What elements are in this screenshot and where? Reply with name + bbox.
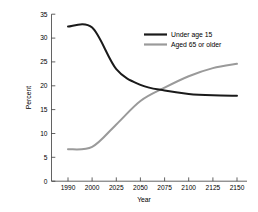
line-chart: 0 5 10 15 20 25 30 35 1990 2000 2025 205… bbox=[0, 0, 258, 212]
legend-label-aged-65-or-older: Aged 65 or older bbox=[171, 41, 222, 49]
y-axis-tick-labels: 0 5 10 15 20 25 30 35 bbox=[40, 11, 48, 185]
y-tick-label-20: 20 bbox=[40, 82, 48, 89]
y-tick-label-25: 25 bbox=[40, 58, 48, 65]
x-tick-label-2025: 2025 bbox=[109, 184, 124, 191]
x-tick-label-2150: 2150 bbox=[230, 184, 245, 191]
x-tick-label-1990: 1990 bbox=[61, 184, 76, 191]
plot-area-background bbox=[51, 14, 247, 181]
x-tick-label-2125: 2125 bbox=[206, 184, 221, 191]
x-tick-label-2050: 2050 bbox=[133, 184, 148, 191]
chart-figure: 0 5 10 15 20 25 30 35 1990 2000 2025 205… bbox=[0, 0, 258, 212]
x-axis-tick-labels: 1990 2000 2025 2050 2075 2100 2125 2150 bbox=[61, 184, 245, 191]
y-tick-label-35: 35 bbox=[40, 11, 48, 18]
y-tick-label-30: 30 bbox=[40, 34, 48, 41]
x-tick-label-2000: 2000 bbox=[85, 184, 100, 191]
x-axis-title: Year bbox=[137, 196, 151, 203]
y-tick-label-0: 0 bbox=[44, 178, 48, 185]
x-tick-label-2100: 2100 bbox=[181, 184, 196, 191]
x-tick-label-2075: 2075 bbox=[157, 184, 172, 191]
y-axis-title: Percent bbox=[25, 86, 32, 110]
y-tick-label-10: 10 bbox=[40, 130, 48, 137]
y-tick-label-15: 15 bbox=[40, 106, 48, 113]
legend-label-under-age-15: Under age 15 bbox=[171, 31, 212, 39]
y-tick-label-5: 5 bbox=[44, 154, 48, 161]
